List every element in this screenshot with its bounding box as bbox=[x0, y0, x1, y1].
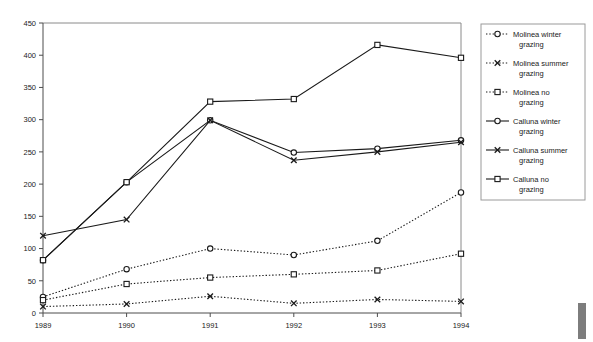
series-line bbox=[43, 192, 461, 296]
chart-legend: Molinea wintergrazingMolinea summergrazi… bbox=[481, 24, 585, 200]
data-point-square bbox=[458, 251, 463, 256]
y-tick-label: 200 bbox=[23, 180, 36, 189]
data-point-legend-square bbox=[495, 176, 500, 181]
data-point-cross bbox=[291, 301, 297, 307]
data-point-circle bbox=[458, 190, 463, 195]
series-line bbox=[43, 120, 461, 260]
series-3 bbox=[40, 118, 463, 263]
legend-label-continued: grazing bbox=[519, 69, 544, 78]
y-tick-label: 0 bbox=[32, 309, 36, 318]
legend-label: Calluna winter bbox=[513, 117, 561, 126]
x-tick-label: 1993 bbox=[369, 321, 386, 330]
y-tick-label: 50 bbox=[28, 277, 36, 286]
y-tick-label: 100 bbox=[23, 244, 36, 253]
data-point-legend-square bbox=[495, 89, 500, 94]
data-point-legend-circle bbox=[495, 31, 500, 36]
line-chart: 050100150200250300350400450 198919901991… bbox=[0, 0, 593, 342]
series-line bbox=[43, 254, 461, 300]
data-point-square bbox=[375, 42, 380, 47]
data-point-square bbox=[124, 180, 129, 185]
x-axis-tick-labels: 198919901991199219931994 bbox=[35, 321, 470, 330]
data-point-square bbox=[40, 258, 45, 263]
data-point-circle bbox=[124, 266, 129, 271]
y-tick-label: 150 bbox=[23, 212, 36, 221]
legend-label-continued: grazing bbox=[519, 185, 544, 194]
legend-label-continued: grazing bbox=[519, 40, 544, 49]
y-tick-label: 400 bbox=[23, 51, 36, 60]
data-point-square bbox=[40, 298, 45, 303]
plot-area-border bbox=[43, 23, 461, 313]
legend-label: Calluna no bbox=[513, 175, 549, 184]
data-point-cross bbox=[124, 301, 130, 307]
chart-axes bbox=[39, 23, 461, 317]
edge-artifact bbox=[578, 303, 586, 339]
chart-container: 050100150200250300350400450 198919901991… bbox=[0, 0, 593, 342]
legend-border bbox=[481, 24, 585, 200]
series-line bbox=[43, 120, 461, 235]
x-tick-label: 1991 bbox=[202, 321, 219, 330]
series-1 bbox=[40, 293, 464, 309]
axis-lines bbox=[43, 23, 461, 313]
legend-label-continued: grazing bbox=[519, 127, 544, 136]
x-tick-label: 1989 bbox=[35, 321, 52, 330]
data-series-layer bbox=[40, 42, 464, 309]
legend-label-continued: grazing bbox=[519, 98, 544, 107]
data-point-square bbox=[208, 99, 213, 104]
x-tick-label: 1990 bbox=[118, 321, 135, 330]
data-point-circle bbox=[291, 252, 296, 257]
data-point-square bbox=[458, 55, 463, 60]
legend-label-continued: grazing bbox=[519, 156, 544, 165]
x-tick-label: 1994 bbox=[453, 321, 470, 330]
legend-label: Molinea summer bbox=[513, 59, 569, 68]
series-5 bbox=[40, 42, 463, 262]
data-point-square bbox=[291, 96, 296, 101]
y-tick-label: 450 bbox=[23, 19, 36, 28]
y-axis-tick-labels: 050100150200250300350400450 bbox=[23, 19, 36, 318]
data-point-circle bbox=[375, 238, 380, 243]
series-line bbox=[43, 45, 461, 260]
series-4 bbox=[40, 118, 464, 239]
legend-label: Calluna summer bbox=[513, 146, 568, 155]
data-point-square bbox=[208, 275, 213, 280]
data-point-square bbox=[291, 272, 296, 277]
data-point-circle bbox=[208, 246, 213, 251]
data-point-square bbox=[124, 281, 129, 286]
series-line bbox=[43, 296, 461, 306]
series-0 bbox=[40, 190, 463, 300]
data-point-square bbox=[375, 268, 380, 273]
y-tick-label: 300 bbox=[23, 115, 36, 124]
legend-label: Molinea winter bbox=[513, 30, 562, 39]
y-tick-label: 250 bbox=[23, 148, 36, 157]
legend-label: Molinea no bbox=[513, 88, 550, 97]
data-point-legend-circle bbox=[495, 118, 500, 123]
x-tick-label: 1992 bbox=[285, 321, 302, 330]
data-point-circle bbox=[291, 150, 296, 155]
y-tick-label: 350 bbox=[23, 83, 36, 92]
